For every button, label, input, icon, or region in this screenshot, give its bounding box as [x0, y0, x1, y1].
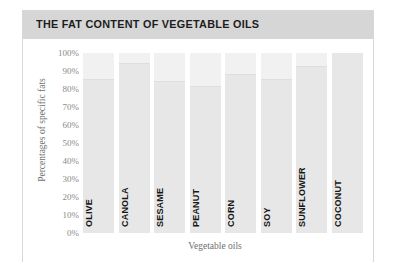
y-axis-tick-label: 100% — [37, 48, 79, 58]
y-axis-tick-label: 70% — [37, 102, 79, 112]
bar-value-cap — [261, 79, 292, 80]
bar-category-label: SOY — [262, 207, 272, 227]
y-axis-tick-label: 10% — [37, 210, 79, 220]
bar-value-cap — [154, 81, 185, 82]
bar-group: OLIVECANOLASESAMEPEANUTCORNSOYSUNFLOWERC… — [83, 53, 363, 233]
y-axis-tick-label: 40% — [37, 156, 79, 166]
bar-category-label: SESAME — [155, 188, 165, 227]
y-axis-tick-label: 20% — [37, 192, 79, 202]
bar-column[interactable]: SOY — [261, 53, 292, 233]
bar-column[interactable]: PEANUT — [190, 53, 221, 233]
bar-column[interactable]: CORN — [225, 53, 256, 233]
y-axis-tick-label: 50% — [37, 138, 79, 148]
chart-card: THE FAT CONTENT OF VEGETABLE OILS Percen… — [22, 10, 374, 262]
y-axis-tick-label: 0% — [37, 228, 79, 238]
x-axis-title: Vegetable oils — [23, 241, 373, 251]
bar-value-cap — [296, 66, 327, 67]
bar-category-label: COCONUT — [333, 180, 343, 227]
bar-category-label: SUNFLOWER — [297, 167, 307, 227]
chart-figure: THE FAT CONTENT OF VEGETABLE OILS Percen… — [0, 0, 396, 275]
bar-column[interactable]: OLIVE — [83, 53, 114, 233]
bar-value-cap — [83, 79, 114, 80]
bar-value-cap — [225, 74, 256, 75]
y-axis-tick-label: 80% — [37, 84, 79, 94]
chart-header-band: THE FAT CONTENT OF VEGETABLE OILS — [23, 11, 373, 39]
bar-value-cap — [190, 86, 221, 87]
y-axis-tick-label: 60% — [37, 120, 79, 130]
plot-area: Percentages of specific fats 100%90%80%7… — [23, 39, 373, 263]
bar-column[interactable]: COCONUT — [332, 53, 363, 233]
bar-column[interactable]: SUNFLOWER — [296, 53, 327, 233]
bar-value-cap — [119, 63, 150, 64]
bar-category-label: CORN — [226, 200, 236, 227]
bar-category-label: OLIVE — [84, 199, 94, 227]
y-axis-ticks: 100%90%80%70%60%50%40%30%20%10%0% — [37, 53, 79, 233]
y-axis-tick-label: 30% — [37, 174, 79, 184]
bar-category-label: PEANUT — [191, 189, 201, 227]
y-axis-tick-label: 90% — [37, 66, 79, 76]
page-title: THE FAT CONTENT OF VEGETABLE OILS — [36, 18, 259, 30]
bar-category-label: CANOLA — [120, 187, 130, 227]
bar-column[interactable]: CANOLA — [119, 53, 150, 233]
bar-column[interactable]: SESAME — [154, 53, 185, 233]
